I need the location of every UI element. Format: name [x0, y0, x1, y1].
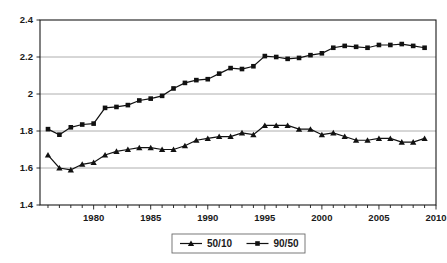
data-point-90-50-1991 — [217, 71, 222, 76]
data-point-90-50-1979 — [80, 122, 85, 127]
legend-label-90-50: 90/50 — [274, 238, 299, 249]
legend-label-50-10: 50/10 — [207, 238, 232, 249]
data-point-90-50-1987 — [171, 86, 176, 91]
line-chart: 1.41.61.822.22.4 19801985199019952000200… — [0, 0, 447, 263]
x-tick-label-2000: 2000 — [311, 212, 332, 223]
chart-canvas: 1.41.61.822.22.4 19801985199019952000200… — [0, 0, 447, 263]
data-point-90-50-1984 — [137, 98, 142, 103]
data-point-90-50-1995 — [263, 54, 268, 59]
x-tick-label-2005: 2005 — [368, 212, 390, 223]
chart-legend[interactable]: 50/1090/50 — [172, 234, 305, 253]
chart-background — [0, 0, 447, 263]
data-point-90-50-2006 — [388, 43, 393, 48]
y-tick-label-1.6: 1.6 — [20, 162, 33, 173]
y-tick-label-2.4: 2.4 — [20, 14, 34, 25]
data-point-90-50-1996 — [274, 55, 279, 60]
data-point-90-50-1981 — [103, 106, 108, 111]
data-point-90-50-1978 — [69, 125, 74, 130]
data-point-90-50-1993 — [240, 67, 245, 72]
y-tick-label-1.8: 1.8 — [20, 125, 33, 136]
data-point-90-50-1994 — [251, 64, 256, 69]
x-tick-label-1980: 1980 — [83, 212, 104, 223]
data-point-90-50-2008 — [411, 44, 416, 49]
y-tick-label-2: 2 — [28, 88, 33, 99]
x-tick-label-1995: 1995 — [254, 212, 276, 223]
legend-marker-90-50 — [255, 241, 260, 246]
data-point-90-50-1980 — [91, 121, 96, 126]
data-point-90-50-2005 — [377, 43, 382, 48]
data-point-90-50-2002 — [342, 44, 347, 49]
data-point-90-50-2004 — [365, 45, 370, 50]
data-point-90-50-1990 — [205, 77, 210, 82]
data-point-90-50-2000 — [320, 51, 325, 56]
data-point-90-50-1989 — [194, 78, 199, 83]
data-point-90-50-1992 — [228, 66, 233, 71]
data-point-90-50-1976 — [46, 127, 51, 132]
data-point-90-50-1986 — [160, 94, 165, 99]
data-point-90-50-2003 — [354, 45, 359, 50]
data-point-90-50-1982 — [114, 105, 119, 110]
data-point-90-50-1999 — [308, 53, 313, 58]
x-tick-label-1990: 1990 — [197, 212, 218, 223]
x-tick-label-2010: 2010 — [425, 212, 446, 223]
data-point-90-50-2007 — [399, 42, 404, 47]
data-point-90-50-1985 — [148, 96, 153, 101]
data-point-90-50-2009 — [422, 45, 427, 50]
data-point-90-50-1977 — [57, 132, 62, 137]
data-point-90-50-1997 — [285, 57, 290, 62]
y-tick-label-2.2: 2.2 — [20, 51, 33, 62]
data-point-90-50-1983 — [126, 103, 131, 108]
x-tick-label-1985: 1985 — [140, 212, 162, 223]
data-point-90-50-2001 — [331, 45, 336, 50]
data-point-90-50-1998 — [297, 56, 302, 61]
data-point-90-50-1988 — [183, 81, 188, 86]
y-tick-label-1.4: 1.4 — [20, 199, 34, 210]
